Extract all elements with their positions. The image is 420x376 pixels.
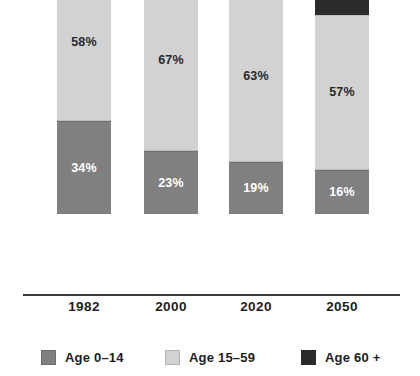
legend-item-age-0-14[interactable]: Age 0–14 (41, 346, 124, 368)
bar-2000[interactable]: 10% 67% 23% (144, 0, 198, 214)
bar-segment-age-60-plus[interactable]: 27% (315, 0, 369, 15)
x-axis-tick-label-2020: 2020 (229, 299, 283, 314)
segment-value-label: 19% (243, 182, 269, 195)
segment-value-label: 63% (243, 70, 269, 83)
bar-segment-age-15-59[interactable]: 57% (315, 15, 369, 171)
bar-segment-age-0-14[interactable]: 34% (57, 121, 111, 214)
segment-value-label: 16% (329, 186, 355, 199)
bar-segment-age-0-14[interactable]: 16% (315, 170, 369, 214)
legend-swatch-icon-age-60-plus (301, 350, 316, 365)
x-axis-tick-label-2000: 2000 (144, 299, 198, 314)
legend-label-age-0-14: Age 0–14 (65, 350, 124, 365)
x-axis-tick-label-2050: 2050 (315, 299, 369, 314)
bar-1982[interactable]: 8% 58% 34% (57, 0, 111, 214)
x-axis-tick-label-1982: 1982 (57, 299, 111, 314)
bar-segment-age-0-14[interactable]: 19% (229, 162, 283, 214)
bar-segment-age-0-14[interactable]: 23% (144, 151, 198, 214)
bar-segment-age-15-59[interactable]: 63% (229, 0, 283, 162)
bar-segment-age-15-59[interactable]: 58% (57, 0, 111, 121)
plot-area: 8% 58% 34% 10% 67% 23% 18% 63% 19% 27% 5… (0, 0, 420, 296)
legend-swatch-icon-age-0-14 (41, 350, 56, 365)
chart-legend: Age 0–14 Age 15–59 Age 60 + (0, 346, 420, 370)
segment-value-label: 57% (329, 86, 355, 99)
legend-label-age-60-plus: Age 60 + (325, 350, 380, 365)
stacked-bar-chart: 8% 58% 34% 10% 67% 23% 18% 63% 19% 27% 5… (0, 0, 420, 376)
legend-item-age-60-plus[interactable]: Age 60 + (301, 346, 380, 368)
segment-value-label: 34% (71, 162, 97, 175)
bar-2020[interactable]: 18% 63% 19% (229, 0, 283, 214)
x-axis-line (23, 294, 400, 296)
segment-value-label: 23% (158, 177, 184, 190)
bar-segment-age-15-59[interactable]: 67% (144, 0, 198, 151)
segment-value-label: 67% (158, 54, 184, 67)
bar-2050[interactable]: 27% 57% 16% (315, 0, 369, 214)
legend-item-age-15-59[interactable]: Age 15–59 (165, 346, 255, 368)
legend-label-age-15-59: Age 15–59 (189, 350, 255, 365)
segment-value-label: 58% (71, 36, 97, 49)
legend-swatch-icon-age-15-59 (165, 350, 180, 365)
